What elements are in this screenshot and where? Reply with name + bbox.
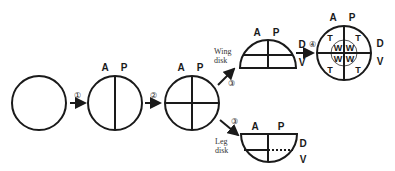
- label-posterior: P: [349, 12, 356, 23]
- label-t-pv: T: [355, 65, 361, 75]
- label-posterior: P: [278, 121, 285, 132]
- label-ventral: V: [377, 56, 384, 67]
- stage-3-quadrant-disk: A P: [165, 62, 219, 130]
- stage-2-ap-disk: A P: [88, 62, 142, 130]
- arrow-step-1: ①: [70, 91, 85, 103]
- label-posterior: P: [273, 27, 280, 38]
- label-anterior: A: [329, 12, 336, 23]
- label-dorsal: D: [299, 138, 306, 149]
- diagram-canvas: ① A P ② A P ③ Wing disk A P D ④ V: [0, 0, 395, 171]
- label-w-av: W: [334, 54, 343, 64]
- arrow-step-2: ②: [145, 91, 160, 103]
- step-4-label: ④: [309, 40, 316, 49]
- arrow-to-leg-disk: ③ Leg disk: [215, 117, 238, 155]
- leg-disk-label-line2: disk: [215, 146, 228, 155]
- label-anterior: A: [253, 27, 260, 38]
- step-2-label: ②: [150, 91, 157, 100]
- label-ventral: V: [299, 57, 306, 68]
- label-posterior: P: [121, 62, 128, 73]
- label-anterior: A: [101, 62, 108, 73]
- arrow-step-4: D ④ V: [296, 39, 316, 68]
- label-w-pv: W: [346, 54, 355, 64]
- step-1-label: ①: [74, 91, 81, 100]
- label-t-ad: T: [327, 33, 333, 43]
- label-t-av: T: [327, 65, 333, 75]
- label-w-pd: W: [346, 43, 355, 53]
- arrow-to-wing-disk: ③ Wing disk: [214, 47, 235, 88]
- label-dorsal: D: [376, 38, 383, 49]
- label-ventral: V: [300, 154, 307, 165]
- step-3-wing-label: ③: [228, 79, 235, 88]
- label-dorsal: D: [298, 39, 305, 50]
- wing-disk: A P: [240, 27, 296, 68]
- leg-disk: A P D V: [241, 121, 307, 165]
- label-posterior: P: [197, 62, 204, 73]
- wing-disk-label-line2: disk: [214, 56, 227, 65]
- step-3-leg-label: ③: [231, 117, 238, 126]
- final-wing-disk: A P D V T T T T W W W W: [317, 12, 384, 80]
- label-w-ad: W: [334, 43, 343, 53]
- label-anterior: A: [177, 62, 184, 73]
- label-t-pd: T: [355, 33, 361, 43]
- wing-disk-label-line1: Wing: [214, 47, 231, 56]
- label-anterior: A: [251, 121, 258, 132]
- stage-1-undivided-disk: [12, 76, 66, 130]
- leg-disk-label-line1: Leg: [215, 137, 227, 146]
